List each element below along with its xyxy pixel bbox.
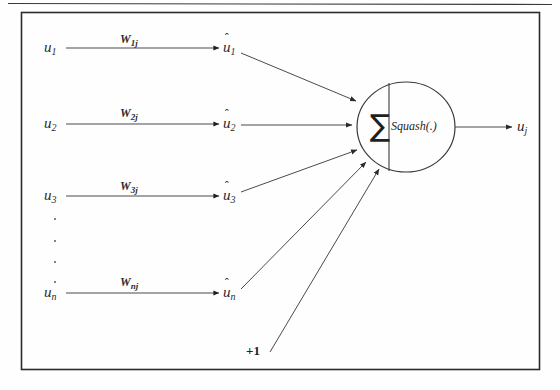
bias-input-line [270, 169, 379, 352]
figure-canvas: u1 u2 u3 un W1j W2j W3j Wnj ̂u1 ̂u2 ̂u3 … [0, 0, 560, 390]
weighted-input-label-uhat3: ̂u3 [223, 188, 236, 203]
ellipsis-dot [54, 281, 56, 283]
summation-symbol: ∑ [370, 111, 390, 141]
weighted-input-label-uhat2: ̂u2 [223, 116, 236, 131]
weighted-input-label-uhatn: ̂un [223, 285, 236, 300]
top-rule [8, 4, 552, 5]
weighted-input-label-uhat1: ̂u1 [223, 40, 236, 55]
weight-label-w2j: W2j [120, 107, 138, 119]
ellipsis-dot [54, 218, 56, 220]
neuron-input-line-n [241, 162, 366, 289]
neuron-input-line-1 [241, 53, 356, 101]
input-label-u1: u1 [44, 40, 57, 55]
weight-label-w1j: W1j [120, 33, 138, 45]
weight-label-wnj: Wnj [120, 276, 138, 288]
input-label-u2: u2 [44, 116, 57, 131]
output-label-uj: uj [517, 119, 527, 134]
diagram-vector-layer [0, 0, 560, 390]
weight-label-w3j: W3j [120, 180, 138, 192]
activation-function-label: Squash(.) [391, 120, 437, 132]
neuron-input-line-3 [241, 150, 357, 192]
ellipsis-dot [54, 240, 56, 242]
ellipsis-dot [54, 261, 56, 263]
input-label-un: un [44, 285, 57, 300]
input-label-u3: u3 [44, 188, 57, 203]
figure-border [22, 13, 540, 370]
bias-label: +1 [246, 344, 260, 357]
